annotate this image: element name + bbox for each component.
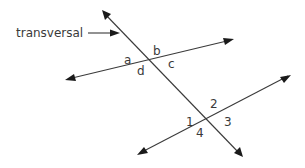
- transversal-label: transversal: [16, 26, 83, 40]
- angle-label-d: d: [137, 64, 145, 78]
- upper-line-right-arrowhead-icon: [223, 38, 234, 45]
- lower-line-left-arrowhead-icon: [137, 147, 148, 155]
- transversal-line: [104, 13, 240, 154]
- lower-line: [140, 76, 288, 153]
- lower-line-right-arrowhead-icon: [280, 75, 291, 83]
- angle-label-a: a: [124, 53, 131, 67]
- angle-label-3: 3: [224, 115, 232, 129]
- angle-label-1: 1: [186, 115, 194, 129]
- angle-label-c: c: [168, 57, 175, 71]
- angle-label-4: 4: [196, 126, 204, 140]
- transversal-diagram: transversal a b c d 1 2 3 4: [0, 0, 305, 168]
- angle-label-2: 2: [210, 97, 218, 111]
- angle-label-b: b: [153, 44, 161, 58]
- label-pointer-arrowhead-icon: [110, 30, 120, 37]
- upper-line: [68, 40, 231, 79]
- upper-line-left-arrowhead-icon: [65, 74, 76, 81]
